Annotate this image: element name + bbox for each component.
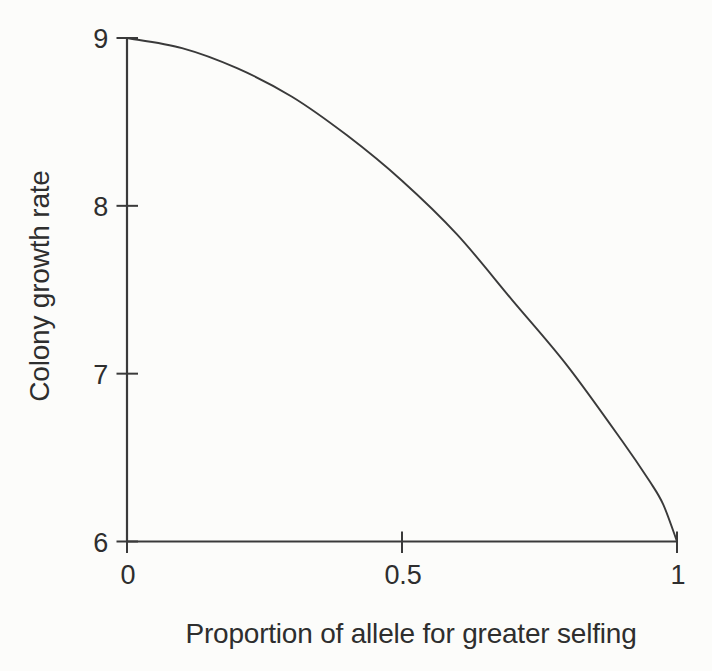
y-axis-title: Colony growth rate — [26, 170, 54, 401]
data-curve — [127, 38, 677, 542]
axes — [127, 38, 677, 542]
x-tick-label-1: 1 — [671, 562, 686, 589]
chart-canvas — [0, 0, 712, 671]
x-tick-label-0.5: 0.5 — [385, 562, 422, 589]
y-tick-label-9: 9 — [93, 26, 108, 53]
x-tick-label-0: 0 — [121, 562, 136, 589]
figure: Colony growth rate Proportion of allele … — [0, 0, 712, 671]
y-tick-label-8: 8 — [93, 193, 108, 220]
tick-marks — [117, 38, 678, 553]
growth-rate-curve — [127, 38, 677, 542]
x-axis-title: Proportion of allele for greater selfing — [185, 620, 636, 648]
y-tick-label-6: 6 — [93, 529, 108, 556]
y-tick-label-7: 7 — [93, 361, 108, 388]
